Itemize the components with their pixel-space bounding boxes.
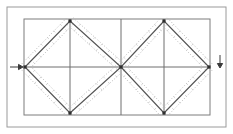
hatch-tick	[89, 43, 91, 45]
dotted-offset-band-diag-A-B-a	[28, 24, 73, 70]
hatch-tick	[52, 42, 54, 44]
hatch-tick	[193, 56, 195, 58]
diag-A-B	[25, 21, 70, 67]
hatch-tick	[60, 24, 62, 26]
load-arrow-left	[10, 64, 23, 69]
hatch-tick	[130, 82, 132, 84]
hatch-tick	[60, 108, 62, 110]
diag-C-E	[121, 21, 164, 67]
hatch-tick	[154, 108, 156, 110]
dotted-offset-band-diag-B-C-a	[67, 24, 118, 70]
node-right-bottom	[162, 111, 165, 114]
diag-C-D	[70, 67, 121, 113]
hatch-tick	[65, 103, 67, 105]
hatch-tick	[59, 36, 61, 38]
hatch-tick	[115, 57, 117, 59]
hatch-tick	[142, 95, 144, 97]
hatch-tick	[172, 24, 174, 26]
hatch-tick	[204, 75, 206, 77]
hatch-tick	[86, 102, 88, 104]
hatch-tick	[65, 29, 67, 31]
dotted-offset-band-diag-C-D-a	[67, 64, 118, 110]
dotted-offset-band-diag-B-C-b	[73, 18, 124, 64]
hatch-tick	[186, 83, 188, 85]
hatch-tick	[34, 82, 36, 84]
hatch-tick	[54, 102, 56, 104]
hatch-tick	[40, 56, 42, 58]
hatch-tick	[172, 108, 174, 110]
hatch-tick	[129, 62, 131, 64]
hatch-tick	[47, 37, 49, 39]
hatch-tick	[180, 90, 182, 92]
hatch-tick	[54, 31, 56, 33]
hatch-tick	[191, 44, 193, 46]
hatch-tick	[94, 95, 96, 97]
hatch-tick	[79, 108, 81, 110]
hatch-tick	[108, 82, 110, 84]
hatch-tick	[103, 77, 105, 79]
dotted-offset-band-diag-E-F-a	[161, 24, 206, 70]
arrow-right-pointing	[19, 64, 24, 69]
hatch-tick	[74, 103, 76, 105]
hatch-tick	[191, 88, 193, 90]
diag-D-A	[25, 67, 70, 113]
node-left-bottom	[68, 111, 71, 114]
hatch-tick	[28, 57, 30, 59]
dotted-offset-band-diag-A-B-b	[22, 18, 67, 64]
hatch-tick	[81, 96, 83, 98]
hatch-tick	[199, 70, 201, 72]
hatch-tick	[204, 57, 206, 59]
diag-B-C	[70, 21, 121, 67]
hatch-tick	[193, 77, 195, 79]
hatch-tick	[33, 70, 35, 72]
hatch-tick	[198, 82, 200, 84]
dotted-offset-band-diag-F-G-b	[167, 70, 212, 116]
hatch-tick	[141, 83, 143, 85]
hatch-tick	[79, 24, 81, 26]
diag-E-F	[164, 21, 209, 67]
hatch-tick	[33, 62, 35, 64]
hatch-tick	[124, 75, 126, 77]
hatch-tick	[154, 24, 156, 26]
node-center-mid	[119, 65, 122, 68]
hatch-tick	[154, 97, 156, 99]
hatch-tick	[135, 77, 137, 79]
hatch-tick	[59, 97, 61, 99]
hatch-tick	[41, 88, 43, 90]
hatch-tick	[179, 102, 181, 104]
hatch-tick	[160, 29, 162, 31]
hatch-tick	[180, 42, 182, 44]
hatch-tick	[173, 36, 175, 38]
hatch-tick	[96, 49, 98, 51]
hatch-tick	[108, 50, 110, 52]
hatch-tick	[136, 44, 138, 46]
dotted-offset-band-diag-C-E-b	[118, 18, 161, 64]
hatch-tick	[179, 31, 181, 33]
hatch-tick	[94, 37, 96, 39]
hatch-tick	[136, 88, 138, 90]
hatch-tick	[186, 49, 188, 51]
dotted-offset-band-diag-G-C-a	[124, 64, 167, 110]
hatch-tick	[154, 36, 156, 38]
hatch-tick	[28, 75, 30, 77]
hatch-tick	[46, 83, 48, 85]
arrow-down-pointing	[217, 64, 222, 69]
hatch-tick	[47, 95, 49, 97]
dotted-offset-band-diag-G-C-b	[118, 70, 161, 116]
hatch-tick	[147, 90, 149, 92]
hatch-tick	[167, 29, 169, 31]
hatch-tick	[41, 44, 43, 46]
node-left-top	[68, 19, 71, 22]
hatch-tick	[111, 70, 113, 72]
hatch-tick	[40, 77, 42, 79]
hatch-tick	[148, 31, 150, 33]
load-arrow-right	[217, 55, 222, 68]
hatch-tick	[101, 44, 103, 46]
hatch-tick	[101, 89, 103, 91]
diag-F-G	[164, 67, 209, 113]
hatch-tick	[46, 49, 48, 51]
hatch-tick	[148, 102, 150, 104]
geometry-diagram	[0, 0, 233, 134]
hatch-tick	[130, 51, 132, 53]
hatch-tick	[111, 62, 113, 64]
